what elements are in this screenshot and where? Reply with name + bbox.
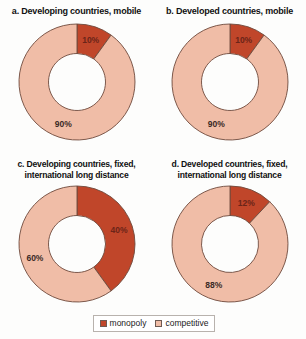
legend-label-monopoly: monopoly	[110, 319, 147, 328]
donut-slice-label-competitive: 60%	[26, 253, 43, 263]
panel-c: c. Developing countries, fixed, internat…	[0, 155, 153, 310]
donut-slice-competitive	[18, 24, 134, 140]
panel-d: d. Developed countries, fixed, internati…	[153, 155, 306, 310]
donut-slice-label-competitive: 88%	[205, 280, 222, 290]
donut-chart-figure: a. Developing countries, mobile 10%90% b…	[0, 0, 306, 339]
donut-d-wrap: 12%88%	[167, 181, 293, 307]
donut-slice-competitive	[172, 186, 288, 302]
donut-slice-competitive	[172, 24, 288, 140]
donut-slice-label-monopoly: 12%	[237, 198, 254, 208]
panel-c-title: c. Developing countries, fixed, internat…	[0, 155, 153, 180]
panel-a-title: a. Developing countries, mobile	[0, 2, 153, 17]
legend-swatch-competitive	[155, 320, 162, 327]
panel-d-title: d. Developed countries, fixed, internati…	[153, 155, 306, 180]
legend-label-competitive: competitive	[165, 319, 208, 328]
legend-item-monopoly: monopoly	[100, 319, 147, 328]
donut-slice-label-monopoly: 10%	[235, 34, 252, 44]
panel-b: b. Developed countries, mobile 10%90%	[153, 2, 306, 157]
legend-item-competitive: competitive	[155, 319, 208, 328]
donut-d: 12%88%	[167, 181, 293, 307]
donut-slice-label-monopoly: 40%	[110, 225, 127, 235]
donut-a-wrap: 10%90%	[14, 19, 140, 145]
donut-b-wrap: 10%90%	[167, 19, 293, 145]
donut-a: 10%90%	[14, 19, 140, 145]
donut-slice-label-competitive: 90%	[207, 119, 224, 129]
donut-b: 10%90%	[167, 19, 293, 145]
donut-slice-label-competitive: 90%	[54, 119, 71, 129]
donut-c-wrap: 40%60%	[14, 181, 140, 307]
donut-c: 40%60%	[14, 181, 140, 307]
panel-grid: a. Developing countries, mobile 10%90% b…	[0, 0, 306, 310]
legend-swatch-monopoly	[100, 320, 107, 327]
panel-a: a. Developing countries, mobile 10%90%	[0, 2, 153, 157]
panel-b-title: b. Developed countries, mobile	[153, 2, 306, 17]
donut-slice-label-monopoly: 10%	[82, 34, 99, 44]
legend: monopoly competitive	[93, 315, 215, 332]
